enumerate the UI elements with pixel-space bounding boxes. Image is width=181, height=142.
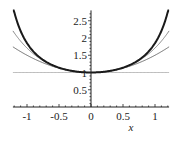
axes: [13, 10, 169, 107]
x-tick-label: -1: [22, 110, 31, 122]
tick-labels: -1-0.500.510.511.522.5x: [22, 15, 157, 133]
y-tick-label: 0.5: [73, 84, 87, 96]
y-tick-label: 1: [82, 67, 88, 79]
x-axis-label: x: [128, 121, 134, 133]
y-tick-label: 1.5: [73, 49, 87, 61]
chart: -1-0.500.510.511.522.5x: [0, 0, 181, 142]
x-tick-label: -0.5: [50, 110, 68, 122]
y-tick-label: 2.5: [73, 15, 87, 27]
y-tick-label: 2: [82, 32, 88, 44]
x-tick-label: 1: [152, 110, 158, 122]
x-tick-label: 0: [88, 110, 94, 122]
